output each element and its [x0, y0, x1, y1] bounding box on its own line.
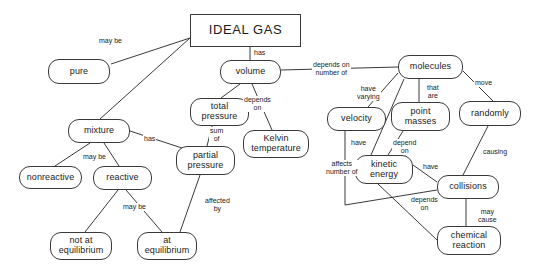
edge-partial_pressure-to-at_equilibrium [180, 175, 200, 232]
concept-node-point_masses[interactable]: point masses [391, 102, 450, 131]
edge-label-e20: affects number of [325, 160, 359, 176]
edge-kinetic_energy-to-chemical_reaction [378, 184, 437, 240]
concept-node-pure[interactable]: pure [48, 59, 110, 84]
edge-label-e19: have [422, 163, 439, 171]
concept-node-randomly[interactable]: randomly [459, 101, 521, 126]
concept-node-partial_pressure[interactable]: partial pressure [176, 146, 235, 175]
concept-node-reactive[interactable]: reactive [93, 166, 152, 190]
concept-node-label-randomly: randomly [469, 109, 511, 119]
concept-node-at_equilibrium[interactable]: at equilibrium [137, 232, 197, 260]
concept-node-label-not_at_equilibrium: not at equilibrium [57, 236, 106, 255]
edge-label-e13: affected by [204, 197, 231, 213]
concept-node-label-chemical_reaction: chemical reaction [449, 231, 489, 250]
edge-ideal_gas-to-mixture [100, 38, 190, 119]
concept-node-kelvin_temperature[interactable]: Kelvin temperature [243, 130, 309, 158]
edge-label-e18: depend on [392, 139, 417, 155]
edge-volume-to-total_pressure [221, 84, 240, 98]
concept-node-label-molecules: molecules [408, 62, 453, 72]
concept-node-volume[interactable]: volume [220, 60, 281, 84]
concept-node-label-mixture: mixture [82, 126, 116, 136]
concept-node-label-total_pressure: total pressure [200, 102, 240, 121]
edge-label-e6: depends on [243, 96, 272, 112]
edge-label-e3: has [253, 49, 266, 57]
edge-label-e11: may be [122, 203, 147, 211]
edge-label-e21: depends on [410, 196, 439, 212]
concept-node-label-kinetic_energy: kinetic energy [368, 160, 400, 179]
concept-node-chemical_reaction[interactable]: chemical reaction [437, 226, 501, 255]
edge-label-e22: may cause [477, 208, 498, 224]
edge-label-e17: have [350, 139, 367, 147]
concept-node-label-volume: volume [234, 67, 268, 77]
concept-node-label-point_masses: point masses [403, 107, 439, 126]
concept-node-kinetic_energy[interactable]: kinetic energy [355, 155, 413, 184]
edge-label-e1: may be [98, 37, 123, 45]
edge-reactive-to-at_equilibrium [126, 190, 162, 232]
edge-label-e8: has [143, 135, 156, 143]
edge-reactive-to-not_at_equilibrium [85, 190, 118, 232]
concept-node-label-at_equilibrium: at equilibrium [143, 236, 192, 255]
concept-node-mixture[interactable]: mixture [68, 119, 130, 143]
edge-label-e9: may be [82, 153, 107, 161]
concept-node-label-nonreactive: nonreactive [25, 173, 77, 183]
edge-label-e15: that are [426, 84, 440, 100]
concept-node-collisions[interactable]: collisions [437, 175, 499, 199]
concept-node-molecules[interactable]: molecules [398, 55, 463, 79]
concept-node-nonreactive[interactable]: nonreactive [19, 166, 82, 189]
concept-node-label-pure: pure [68, 67, 90, 77]
concept-node-label-velocity: velocity [339, 114, 374, 124]
concept-node-label-reactive: reactive [104, 173, 140, 183]
concept-map-canvas: IDEAL GASpuremixturenonreactivereactiven… [0, 0, 540, 273]
edge-label-e23: causing [482, 148, 508, 156]
edge-label-e16: move [474, 79, 493, 87]
edge-label-e14: have varying [356, 85, 381, 101]
concept-node-label-ideal_gas: IDEAL GAS [207, 23, 285, 37]
concept-node-not_at_equilibrium[interactable]: not at equilibrium [50, 232, 112, 260]
concept-node-velocity[interactable]: velocity [327, 107, 386, 131]
edge-label-e7: sum of [209, 127, 224, 143]
concept-node-label-collisions: collisions [447, 182, 489, 192]
concept-node-label-kelvin_temperature: Kelvin temperature [249, 134, 303, 153]
concept-node-ideal_gas[interactable]: IDEAL GAS [190, 14, 301, 47]
edge-label-e4: depends on number of [312, 61, 351, 77]
concept-node-total_pressure[interactable]: total pressure [190, 98, 249, 126]
concept-node-label-partial_pressure: partial pressure [186, 151, 226, 170]
